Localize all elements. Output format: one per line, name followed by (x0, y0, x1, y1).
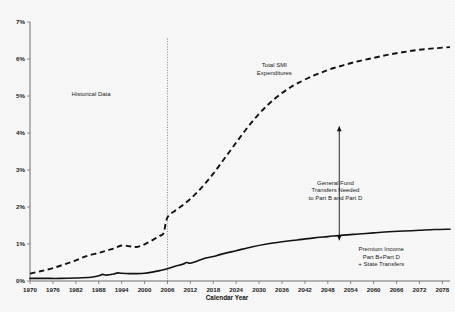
x-tick-label: 2072 (413, 286, 427, 293)
y-tick-label: 1% (16, 240, 25, 247)
y-tick-label: 4% (16, 129, 25, 136)
x-tick-label: 2036 (275, 286, 289, 293)
x-tick-label: 2000 (138, 286, 152, 293)
x-axis-title: Calendar Year (206, 294, 249, 301)
x-tick-label: 2024 (229, 286, 243, 293)
x-tick-label: 2054 (344, 286, 358, 293)
y-tick-label: 5% (16, 92, 25, 99)
x-tick-label: 2012 (183, 286, 197, 293)
annotation-general-fund: to Part B and Part D (309, 195, 363, 201)
annotation-premium-income: + State Transfers (358, 261, 404, 267)
x-tick-label: 2048 (321, 286, 335, 293)
annotation-general-fund: General Fund (317, 180, 354, 186)
y-tick-label: 7% (16, 18, 25, 25)
y-tick-label: 3% (16, 166, 25, 173)
x-tick-label: 1982 (69, 286, 83, 293)
y-tick-label: 2% (16, 203, 25, 210)
x-tick-label: 2066 (390, 286, 404, 293)
data-series-group (30, 47, 450, 278)
x-tick-label: 1976 (46, 286, 60, 293)
x-tick-labels: 1970197619821988199420002006201220182024… (23, 286, 450, 293)
annotation-total-smi: Total SMI (262, 62, 287, 68)
y-tick-label: 6% (16, 55, 25, 62)
annotation-general-fund: Transfers Needed (312, 187, 360, 193)
annotation-premium-income: Part B+Part D (363, 254, 401, 260)
x-tick-label: 2078 (435, 286, 449, 293)
y-tick-label: 0% (16, 277, 25, 284)
chart-annotations: Historical DataTotal SMIExpendituresGene… (72, 62, 405, 267)
annotation-total-smi: Expenditures (257, 70, 292, 76)
x-tick-label: 1994 (115, 286, 129, 293)
y-tick-labels: 0%1%2%3%4%5%6%7% (16, 18, 25, 284)
x-tick-label: 2006 (161, 286, 175, 293)
annotation-premium-income: Premium Income (359, 246, 405, 252)
chart-canvas: 1970197619821988199420002006201220182024… (0, 0, 455, 312)
axes-group (27, 22, 450, 284)
gap-arrow-head-top (337, 126, 342, 131)
x-tick-label: 2030 (252, 286, 266, 293)
x-tick-label: 2060 (367, 286, 381, 293)
smi-expenditure-chart: 1970197619821988199420002006201220182024… (0, 0, 455, 312)
x-tick-label: 2042 (298, 286, 312, 293)
annotation-historical-data: Historical Data (72, 91, 112, 97)
x-tick-label: 1988 (92, 286, 106, 293)
x-tick-label: 1970 (23, 286, 37, 293)
series-line-1 (30, 47, 450, 273)
gap-arrow-head-bottom (337, 235, 342, 240)
x-tick-label: 2018 (206, 286, 220, 293)
